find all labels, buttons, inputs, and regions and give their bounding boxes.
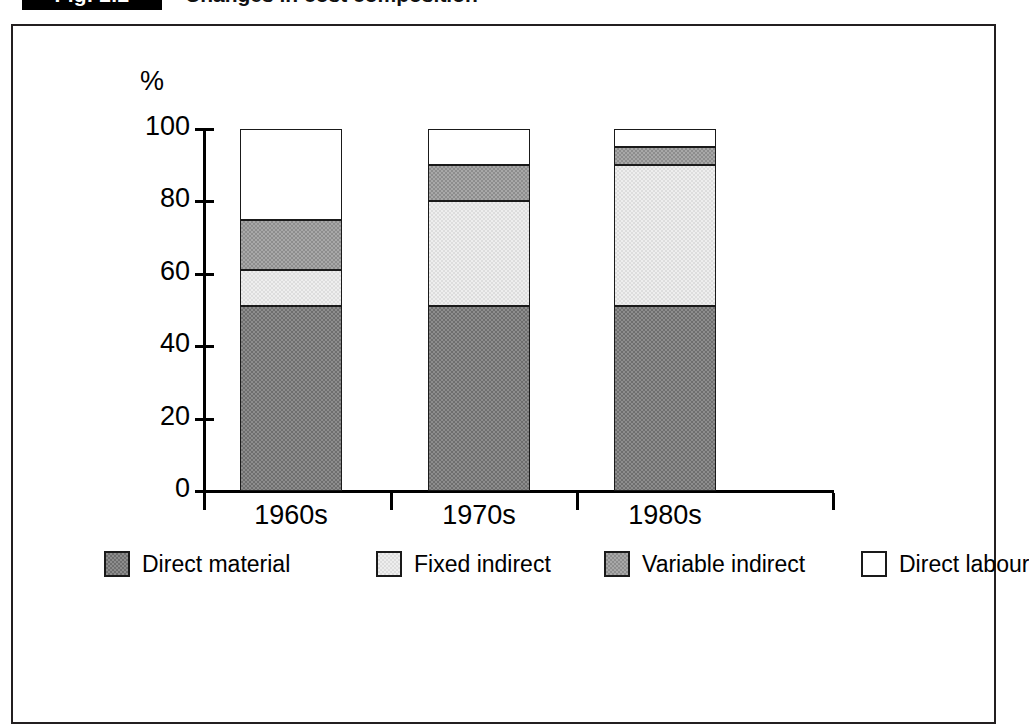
y-axis-line <box>203 129 206 493</box>
legend-item-fixed-indirect[interactable]: Fixed indirect <box>376 548 551 580</box>
chart-legend: Direct materialFixed indirectVariable in… <box>104 548 904 582</box>
bar-segment-direct-labour <box>614 129 716 147</box>
y-tick-label: 100 <box>120 113 190 140</box>
legend-label: Direct material <box>142 551 290 577</box>
x-axis-label-1960s: 1960s <box>191 500 391 530</box>
legend-swatch-icon <box>861 551 887 577</box>
legend-label: Fixed indirect <box>414 551 551 577</box>
legend-label: Variable indirect <box>642 551 805 577</box>
bar-segment-direct-labour <box>240 129 342 220</box>
bar-segment-variable-indirect <box>240 220 342 271</box>
y-tick-mark <box>195 200 214 203</box>
bar-1980s <box>614 129 716 491</box>
legend-item-variable-indirect[interactable]: Variable indirect <box>604 548 805 580</box>
y-tick-mark <box>195 418 214 421</box>
y-tick-label: 40 <box>120 330 190 357</box>
y-tick-0: 0 <box>110 490 214 493</box>
y-tick-mark <box>195 345 214 348</box>
bar-segment-variable-indirect <box>428 165 530 201</box>
y-tick-mark <box>195 128 214 131</box>
legend-label: Direct labour <box>899 551 1029 577</box>
bar-segment-direct-material <box>428 306 530 491</box>
bar-segment-direct-material <box>240 306 342 491</box>
bar-segment-fixed-indirect <box>240 270 342 306</box>
x-tick-mark-3 <box>832 493 835 510</box>
bar-segment-direct-material <box>614 306 716 491</box>
x-axis-label-1970s: 1970s <box>379 500 579 530</box>
bar-segment-variable-indirect <box>614 147 716 165</box>
y-tick-label: 0 <box>120 475 190 502</box>
legend-swatch-icon <box>104 551 130 577</box>
y-axis-unit-label: % <box>140 68 164 95</box>
y-tick-80: 80 <box>110 200 214 203</box>
y-tick-mark <box>195 273 214 276</box>
bar-segment-direct-labour <box>428 129 530 165</box>
y-tick-60: 60 <box>110 273 214 276</box>
bar-1960s <box>240 129 342 491</box>
legend-item-direct-material[interactable]: Direct material <box>104 548 290 580</box>
x-axis-label-1980s: 1980s <box>565 500 765 530</box>
y-tick-label: 20 <box>120 403 190 430</box>
y-tick-label: 80 <box>120 185 190 212</box>
y-tick-100: 100 <box>110 128 214 131</box>
legend-swatch-icon <box>376 551 402 577</box>
y-tick-40: 40 <box>110 345 214 348</box>
legend-item-direct-labour[interactable]: Direct labour <box>861 548 1029 580</box>
bar-segment-fixed-indirect <box>614 165 716 306</box>
y-tick-label: 60 <box>120 258 190 285</box>
y-tick-20: 20 <box>110 418 214 421</box>
legend-swatch-icon <box>604 551 630 577</box>
bar-1970s <box>428 129 530 491</box>
bar-segment-fixed-indirect <box>428 201 530 306</box>
